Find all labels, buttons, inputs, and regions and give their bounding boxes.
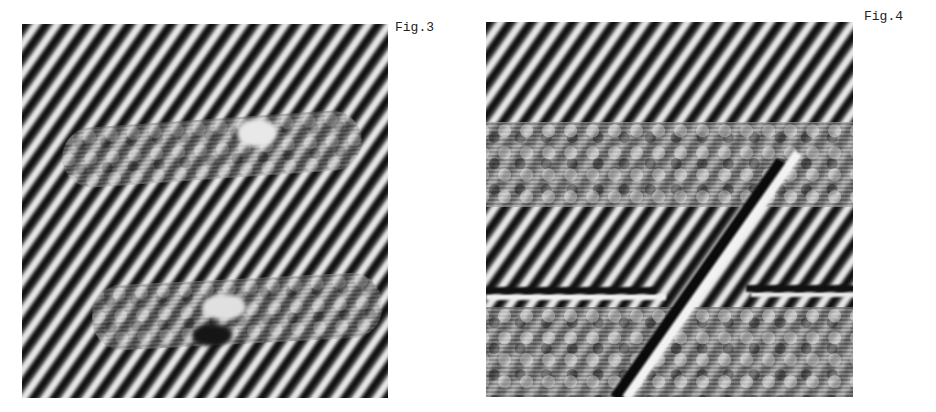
horizontal-boundary-right — [751, 292, 853, 297]
figure-4-micrograph — [486, 22, 853, 397]
horizontal-boundary-right-dark — [746, 285, 853, 292]
horizontal-boundary-left — [486, 294, 666, 300]
bright-blob — [237, 119, 277, 147]
figure-4-caption: Fig.4 — [864, 9, 903, 24]
disordered-region-upper — [486, 122, 853, 207]
figure-3-micrograph — [22, 24, 388, 398]
figure-3-caption: Fig.3 — [395, 20, 434, 35]
bright-blob — [202, 294, 246, 320]
horizontal-boundary-left-dark — [486, 287, 656, 294]
dark-blob — [192, 324, 232, 346]
